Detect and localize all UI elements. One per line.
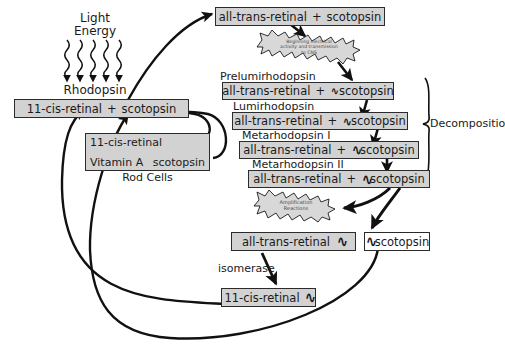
metarhodopsin-ii-left: all-trans-retinal bbox=[253, 172, 341, 186]
light-energy-line2: Energy bbox=[60, 25, 130, 38]
lumirhodopsin-squiggle: ∿ bbox=[343, 114, 351, 129]
light-energy-line1: Light bbox=[60, 12, 130, 25]
eleven-cis-retinal-squiggle: ∿ bbox=[304, 288, 312, 307]
lumirhodopsin-plus: + bbox=[322, 114, 342, 128]
cns-burst: Beginning electrical activity and transm… bbox=[253, 28, 365, 66]
top-product-plus: + bbox=[307, 10, 327, 24]
metarhodopsin-ii-right: scotopsin bbox=[370, 172, 425, 186]
amplification-burst-line2: Reactions bbox=[280, 206, 313, 212]
top-product-box[interactable]: all-trans-retinal + scotopsin bbox=[215, 7, 385, 26]
rod-cells-retinal: 11-cis-retinal bbox=[90, 136, 205, 149]
eleven-cis-retinal-text: 11-cis-retinal bbox=[224, 291, 299, 305]
rhodopsin-right: scotopsin bbox=[122, 102, 177, 116]
top-product-right: scotopsin bbox=[327, 10, 382, 24]
cns-burst-line3: to CNS bbox=[280, 50, 338, 55]
prelumirhodopsin-squiggle: ∿ bbox=[331, 84, 339, 98]
prelumirhodopsin-left: all-trans-retinal bbox=[222, 84, 310, 98]
rhodopsin-left: 11-cis-retinal bbox=[27, 102, 102, 116]
top-product-left: all-trans-retinal bbox=[219, 10, 307, 24]
arrow-rhodopsin-to-product bbox=[128, 14, 212, 100]
lumirhodopsin-left: all-trans-retinal bbox=[234, 114, 322, 128]
isomerase-label: isomerase bbox=[218, 262, 298, 275]
cns-burst-line2: activity and transmission bbox=[280, 44, 338, 49]
rhodopsin-plus: + bbox=[102, 102, 122, 116]
all-trans-retinal-box[interactable]: all-trans-retinal ∿ bbox=[231, 232, 356, 251]
metarhodopsin-ii-plus: + bbox=[341, 172, 361, 186]
metarhodopsin-i-squiggle: ∿ bbox=[352, 141, 360, 159]
amplification-burst-text: Amplification Reactions bbox=[280, 200, 313, 211]
metarhodopsin-i-plus: + bbox=[331, 143, 351, 157]
all-trans-retinal-squiggle: ∿ bbox=[337, 232, 345, 251]
lumirhodopsin-box[interactable]: all-trans-retinal + ∿ scotopsin bbox=[232, 112, 408, 130]
metarhodopsin-i-box[interactable]: all-trans-retinal + ∿ scotopsin bbox=[239, 141, 419, 159]
metarhodopsin-ii-box[interactable]: all-trans-retinal + ∿ scotopsin bbox=[248, 170, 430, 188]
prelumirhodopsin-plus: + bbox=[310, 84, 330, 98]
rod-cells-box[interactable]: 11-cis-retinal Vitamin A scotopsin bbox=[85, 133, 210, 171]
decomposition-brace bbox=[423, 78, 429, 180]
arrow-metaii-to-amplification bbox=[344, 188, 390, 208]
lumirhodopsin-right: scotopsin bbox=[351, 114, 406, 128]
scotopsin-text: scotopsin bbox=[375, 235, 430, 249]
decomposition-label: Decomposition bbox=[430, 117, 505, 130]
amplification-burst: Amplification Reactions bbox=[250, 188, 342, 224]
rod-cells-caption: Rod Cells bbox=[85, 171, 210, 184]
rhodopsin-cycle-diagram: Light Energy Rhodopsin 11-cis-retinal + … bbox=[0, 0, 505, 351]
metarhodopsin-ii-squiggle: ∿ bbox=[362, 170, 370, 189]
arrow-metaii-to-scotopsin bbox=[372, 188, 400, 228]
scotopsin-box[interactable]: ∿ scotopsin bbox=[364, 232, 430, 251]
rhodopsin-box[interactable]: 11-cis-retinal + scotopsin bbox=[14, 99, 189, 118]
metarhodopsin-i-left: all-trans-retinal bbox=[243, 143, 331, 157]
rhodopsin-label: Rhodopsin bbox=[55, 83, 135, 97]
prelumirhodopsin-right: scotopsin bbox=[339, 84, 394, 98]
metarhodopsin-i-right: scotopsin bbox=[360, 143, 415, 157]
light-energy-label: Light Energy bbox=[60, 12, 130, 39]
rod-cells-vitamin-a: Vitamin A bbox=[90, 156, 143, 169]
scotopsin-squiggle: ∿ bbox=[365, 232, 373, 251]
cns-burst-text: Beginning electrical activity and transm… bbox=[280, 39, 338, 54]
rod-cells-scotopsin: scotopsin bbox=[153, 156, 205, 169]
light-ray-arrowheads bbox=[63, 75, 123, 83]
all-trans-retinal-text: all-trans-retinal bbox=[242, 235, 330, 249]
light-ray-group bbox=[65, 40, 122, 78]
prelumirhodopsin-box[interactable]: all-trans-retinal + ∿ scotopsin bbox=[222, 82, 394, 100]
eleven-cis-retinal-box[interactable]: 11-cis-retinal ∿ bbox=[221, 288, 316, 307]
